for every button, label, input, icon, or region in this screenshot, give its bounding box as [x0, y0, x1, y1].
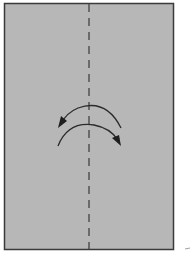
origami-diagram	[0, 0, 192, 258]
paper-sheet	[5, 4, 174, 250]
edge-mark	[185, 248, 190, 249]
